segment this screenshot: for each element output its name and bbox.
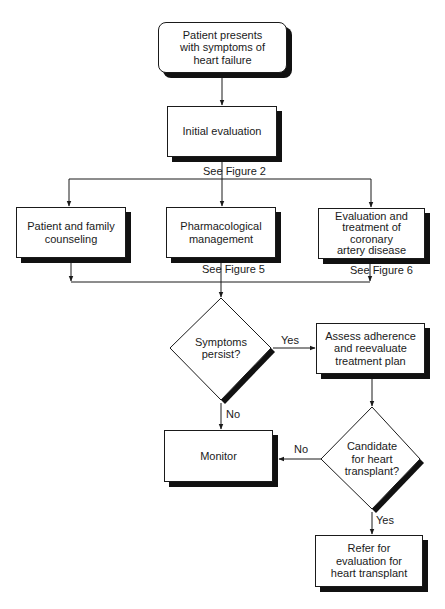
note-see-figure-6[interactable]: See Figure 6 <box>350 264 413 276</box>
node-refer[interactable]: Refer for evaluation for heart transplan… <box>315 535 423 587</box>
node-monitor-label: Monitor <box>200 450 237 463</box>
node-cad[interactable]: Evaluation and treatment of coronary art… <box>318 208 425 259</box>
edge-label-symptoms-yes: Yes <box>281 334 299 346</box>
diamond-symptoms-label: Symptoms persist? <box>195 336 247 361</box>
diamond-candidate-text: Candidate for heart transplant? <box>331 438 413 480</box>
node-monitor[interactable]: Monitor <box>164 430 273 482</box>
node-refer-label: Refer for evaluation for heart transplan… <box>331 542 407 580</box>
node-assess-label: Assess adherence and reevaluate treatmen… <box>325 330 416 368</box>
node-assess[interactable]: Assess adherence and reevaluate treatmen… <box>316 323 425 374</box>
note-see-figure-2[interactable]: See Figure 2 <box>203 165 266 177</box>
edge-label-candidate-yes: Yes <box>376 514 394 526</box>
node-start[interactable]: Patient presents with symptoms of heart … <box>158 22 287 73</box>
node-pharmacological[interactable]: Pharmacological management <box>166 207 276 258</box>
diamond-candidate-label: Candidate for heart transplant? <box>345 440 399 478</box>
node-initial-evaluation-label: Initial evaluation <box>183 125 262 138</box>
node-pharmacological-label: Pharmacological management <box>180 220 261 245</box>
node-cad-label: Evaluation and treatment of coronary art… <box>335 211 408 257</box>
node-start-label: Patient presents with symptoms of heart … <box>180 29 265 67</box>
node-counseling-label: Patient and family counseling <box>27 220 114 245</box>
node-counseling[interactable]: Patient and family counseling <box>16 207 126 258</box>
node-initial-evaluation[interactable]: Initial evaluation <box>167 106 277 157</box>
note-see-figure-5[interactable]: See Figure 5 <box>202 263 265 275</box>
edge-label-candidate-no: No <box>294 443 308 455</box>
diamond-symptoms-text: Symptoms persist? <box>180 330 262 366</box>
edge-label-symptoms-no: No <box>226 408 240 420</box>
